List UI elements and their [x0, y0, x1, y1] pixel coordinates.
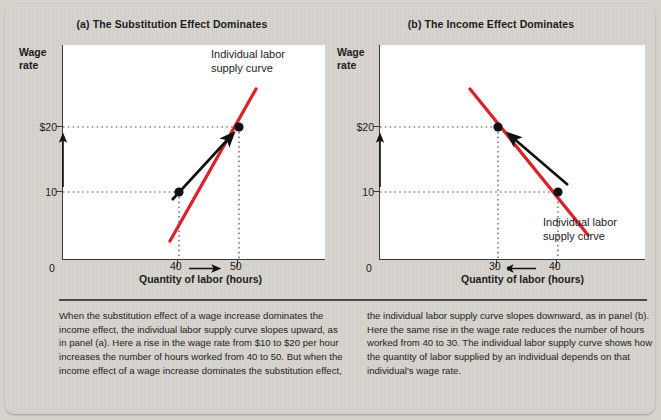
- panel-a-ytickmark-10: [56, 191, 63, 193]
- panel-a-ytick-10: 10: [21, 186, 57, 198]
- figure-root: (a) The Substitution Effect Dominates Wa…: [0, 0, 661, 420]
- panel-a-curve-label-line2: supply curve: [211, 61, 285, 75]
- panel-a-chart-svg: [63, 45, 326, 260]
- panel-b-ytick-20: $20: [338, 121, 374, 133]
- caption-divider: [59, 299, 647, 301]
- panel-a-y-axis-label: Wage rate: [19, 46, 47, 72]
- caption: When the substitution effect of a wage i…: [59, 309, 653, 378]
- panel-a-xtick-50: 50: [230, 260, 242, 272]
- panel-a-title: (a) The Substitution Effect Dominates: [7, 18, 337, 30]
- panel-b-x-axis-label: Quantity of labor (hours): [461, 273, 584, 285]
- panel-b-point-q30: [493, 122, 502, 131]
- panel-a-curve-label-line1: Individual labor: [211, 47, 285, 61]
- caption-right-column: the individual labor supply curve slopes…: [367, 309, 653, 378]
- panel-b-xtick-30: 30: [489, 260, 501, 272]
- panel-a-point-q40: [174, 187, 183, 196]
- panel-b-ytickmark-10: [373, 191, 380, 193]
- panel-a-plot-area: [62, 45, 325, 260]
- panel-a-point-q50: [234, 122, 243, 131]
- panel-a-y-axis-label-line2: rate: [19, 59, 47, 72]
- panel-a-supply-curve: [170, 89, 256, 241]
- panel-a-curve-label: Individual labor supply curve: [211, 47, 285, 75]
- panel-a-origin-label: 0: [49, 262, 55, 274]
- panel-b-wage-increase-arrow: [373, 131, 387, 189]
- panel-a-wage-increase-arrow: [56, 131, 70, 189]
- panel-b-ytick-10: 10: [338, 186, 374, 198]
- panel-a-xtick-40: 40: [170, 260, 182, 272]
- panel-a-x-axis-label: Quantity of labor (hours): [139, 273, 262, 285]
- panel-b-supply-curve: [470, 89, 588, 235]
- panel-b-curve-label-line2: supply curve: [543, 229, 617, 243]
- panel-a-y-axis-label-line1: Wage: [19, 46, 47, 59]
- panel-b-ytickmark-20: [373, 126, 380, 128]
- panel-b-xtick-40: 40: [549, 260, 561, 272]
- panel-a: (a) The Substitution Effect Dominates Wa…: [5, 4, 335, 294]
- panel-b-y-axis-label-line1: Wage: [337, 46, 365, 59]
- panel-b: (b) The Income Effect Dominates Wage rat…: [335, 4, 655, 294]
- panel-a-ytickmark-20: [56, 126, 63, 128]
- panel-b-curve-label-line1: Individual labor: [543, 215, 617, 229]
- panel-b-title: (b) The Income Effect Dominates: [331, 18, 651, 30]
- caption-left-column: When the substitution effect of a wage i…: [59, 309, 345, 378]
- figure-card: (a) The Substitution Effect Dominates Wa…: [5, 4, 655, 414]
- panel-a-ytick-20: $20: [21, 121, 57, 133]
- panel-b-curve-label: Individual labor supply curve: [543, 215, 617, 243]
- panel-b-point-q40: [553, 187, 562, 196]
- panel-b-y-axis-label: Wage rate: [337, 46, 365, 72]
- panel-b-y-axis-label-line2: rate: [337, 59, 365, 72]
- panel-b-origin-label: 0: [366, 262, 372, 274]
